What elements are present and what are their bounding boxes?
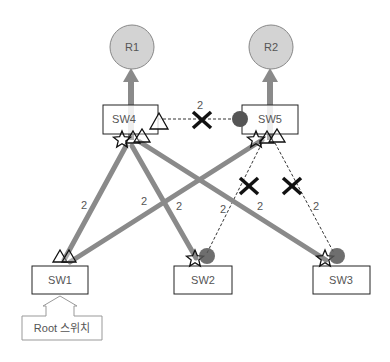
blocked-port-icon (199, 248, 215, 264)
link-cost-label: 2 (141, 195, 147, 207)
blocked-port-icon (232, 111, 248, 127)
router-r2-label: R2 (264, 41, 278, 53)
link-sw1-sw4 (64, 146, 126, 260)
switch-sw1: SW1 (32, 266, 88, 294)
switch-sw5: SW5 (242, 105, 298, 134)
link-cost-label: 2 (176, 200, 182, 212)
router-r2: R2 (249, 25, 293, 69)
link-sw5-sw3 (275, 143, 334, 253)
link-cost-label: 2 (257, 200, 263, 212)
link-cost-label: 2 (313, 200, 319, 212)
link-cost-label: 2 (220, 203, 226, 215)
switch-sw2: SW2 (174, 266, 232, 294)
link-cost-label: 2 (81, 199, 87, 211)
blocked-port-icon (329, 248, 345, 264)
switch-sw4-label: SW4 (112, 113, 136, 125)
switch-sw3: SW3 (313, 266, 370, 294)
link-cost-label: 2 (197, 99, 203, 111)
switch-sw5-label: SW5 (258, 113, 282, 125)
router-r1: R1 (110, 25, 154, 69)
switch-sw1-label: SW1 (48, 274, 72, 286)
router-r1-label: R1 (125, 41, 139, 53)
blocked-x-icon (240, 178, 258, 194)
root-callout-label: Root 스위치 (34, 322, 90, 334)
blocked-x-icon (283, 178, 301, 194)
switch-sw3-label: SW3 (329, 274, 353, 286)
blocked-x-icon (193, 112, 211, 128)
root-callout: Root 스위치 (22, 296, 102, 340)
switch-sw2-label: SW2 (191, 274, 215, 286)
